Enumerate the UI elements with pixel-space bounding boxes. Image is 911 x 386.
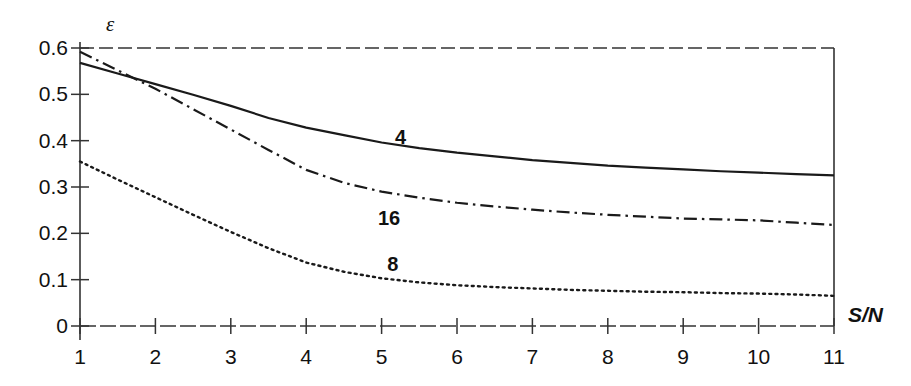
chart-figure: 00.10.20.30.40.50.6 1234567891011 4168 ε… <box>0 0 911 386</box>
x-tick-label: 7 <box>502 346 562 367</box>
y-tick-label: 0.5 <box>10 83 68 104</box>
y-axis-title: ε <box>106 14 114 35</box>
y-tick-label: 0.1 <box>10 269 68 290</box>
chart-plot-area <box>0 0 911 386</box>
x-tick-label: 9 <box>653 346 713 367</box>
plot-frame <box>80 42 834 340</box>
series-label-16: 16 <box>359 208 419 228</box>
y-tick-label: 0.3 <box>10 176 68 197</box>
x-tick-label: 3 <box>201 346 261 367</box>
x-tick-label: 1 <box>50 346 110 367</box>
x-axis-title: S/N <box>848 304 883 325</box>
x-tick-label: 10 <box>729 346 789 367</box>
x-tick-label: 2 <box>125 346 185 367</box>
y-tick-label: 0.4 <box>10 130 68 151</box>
series-line-4 <box>80 63 834 176</box>
series-line-16 <box>80 52 834 225</box>
y-tick-label: 0.6 <box>10 37 68 58</box>
data-series-group <box>80 52 834 296</box>
x-tick-label: 6 <box>427 346 487 367</box>
y-tick-label: 0 <box>10 315 68 336</box>
series-label-8: 8 <box>363 254 423 274</box>
series-line-8 <box>80 162 834 296</box>
x-tick-label: 11 <box>804 346 864 367</box>
series-label-4: 4 <box>370 127 430 147</box>
x-tick-label: 4 <box>276 346 336 367</box>
x-tick-label: 5 <box>352 346 412 367</box>
x-tick-label: 8 <box>578 346 638 367</box>
y-tick-label: 0.2 <box>10 222 68 243</box>
